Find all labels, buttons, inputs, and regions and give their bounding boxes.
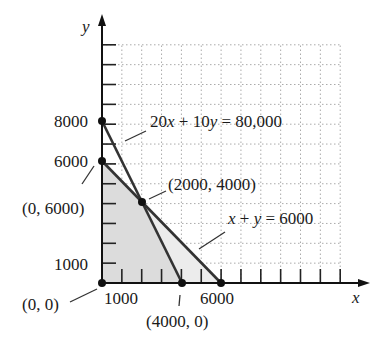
point-label-4000-0: (4000, 0): [146, 312, 208, 331]
y-tick-8000: 8000: [54, 112, 88, 131]
x-tick-1000: 1000: [104, 289, 138, 308]
equation-20x-10y: 20x + 10y = 80,000: [150, 112, 282, 131]
y-axis-label: y: [80, 17, 90, 36]
point-label-0-0: (0, 0): [22, 295, 59, 314]
chart: y x 8000 6000 1000 1000 6000 20x + 10y =…: [0, 0, 384, 350]
y-axis-arrow-icon: [98, 14, 106, 26]
equation-x-y: x + y = 6000: [227, 209, 313, 228]
x-axis-label: x: [351, 288, 360, 307]
y-tick-1000: 1000: [54, 255, 88, 274]
x-axis-arrow-icon: [358, 279, 370, 287]
x-tick-6000: 6000: [200, 289, 234, 308]
point-label-2000-4000: (2000, 4000): [168, 175, 256, 194]
y-tick-6000: 6000: [54, 152, 88, 171]
point-label-0-6000: (0, 6000): [22, 199, 84, 218]
